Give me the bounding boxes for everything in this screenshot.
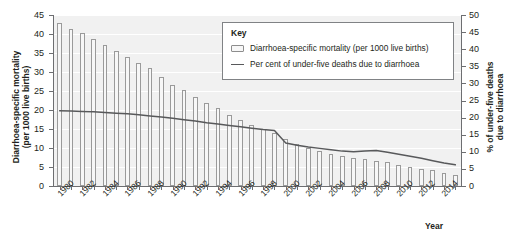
y-axis-right-tick (462, 186, 466, 187)
y-axis-left-tick (49, 91, 53, 92)
y-axis-left-tick-label: 15 (24, 125, 44, 134)
y-axis-left-tick-label: 10 (24, 144, 44, 153)
legend-title: Key (231, 28, 446, 38)
y-axis-right-tick (462, 135, 466, 136)
y-axis-right-tick (462, 101, 466, 102)
y-axis-right-tick-label: 45 (469, 28, 491, 37)
y-axis-right-tick-label: 35 (469, 62, 491, 71)
y-axis-left-tick (49, 167, 53, 168)
y-axis-left-tick (49, 148, 53, 149)
y-axis-right-title-line2: due to diarrhoea (495, 74, 505, 141)
y-axis-left-tick-label: 25 (24, 87, 44, 96)
legend-item-line: Per cent of under-five deaths due to dia… (231, 58, 446, 70)
y-axis-right-tick-label: 25 (469, 96, 491, 105)
y-axis-right-tick (462, 32, 466, 33)
y-axis-left-tick-label: 35 (24, 49, 44, 58)
y-axis-left-tick (49, 129, 53, 130)
y-axis-left-title-line1: Diarrhoea-specific mortality (11, 51, 21, 163)
y-axis-left-tick-label: 20 (24, 106, 44, 115)
y-axis-left-tick (49, 15, 53, 16)
y-axis-right-tick-label: 0 (469, 182, 491, 191)
legend-item-bar: Diarrhoea-specific mortality (per 1000 l… (231, 42, 446, 54)
y-axis-right-tick-label: 15 (469, 130, 491, 139)
y-axis-left-tick-label: 5 (24, 163, 44, 172)
y-axis-right-tick-label: 20 (469, 113, 491, 122)
y-axis-left-tick-label: 40 (24, 30, 44, 39)
line-path (60, 111, 456, 165)
chart-figure: Diarrhoea-specific mortality (per 1000 l… (0, 0, 528, 241)
y-axis-right-tick-label: 30 (469, 79, 491, 88)
y-axis-right-tick (462, 118, 466, 119)
bar-swatch-icon (231, 45, 244, 52)
y-axis-right-tick (462, 152, 466, 153)
y-axis-left-tick-label: 0 (24, 182, 44, 191)
legend-item-line-label: Per cent of under-five deaths due to dia… (250, 59, 419, 69)
x-axis-title: Year (404, 221, 464, 231)
y-axis-left-tick (49, 72, 53, 73)
y-axis-left-tick (49, 110, 53, 111)
line-swatch-icon (231, 64, 244, 65)
y-axis-left-tick (49, 186, 53, 187)
legend-item-bar-label: Diarrhoea-specific mortality (per 1000 l… (250, 43, 428, 53)
y-axis-left-tick (49, 53, 53, 54)
y-axis-left-tick (49, 34, 53, 35)
y-axis-left-tick-label: 45 (24, 11, 44, 20)
y-axis-left-tick-label: 30 (24, 68, 44, 77)
y-axis-right-tick-label: 5 (469, 164, 491, 173)
legend-box: Key Diarrhoea-specific mortality (per 10… (222, 22, 454, 80)
y-axis-right-tick (462, 15, 466, 16)
y-axis-right-tick-label: 50 (469, 11, 491, 20)
y-axis-right-tick (462, 83, 466, 84)
y-axis-right-tick-label: 40 (469, 45, 491, 54)
y-axis-right-tick (462, 66, 466, 67)
y-axis-right-tick (462, 169, 466, 170)
y-axis-right-tick (462, 49, 466, 50)
y-axis-right-tick-label: 10 (469, 147, 491, 156)
